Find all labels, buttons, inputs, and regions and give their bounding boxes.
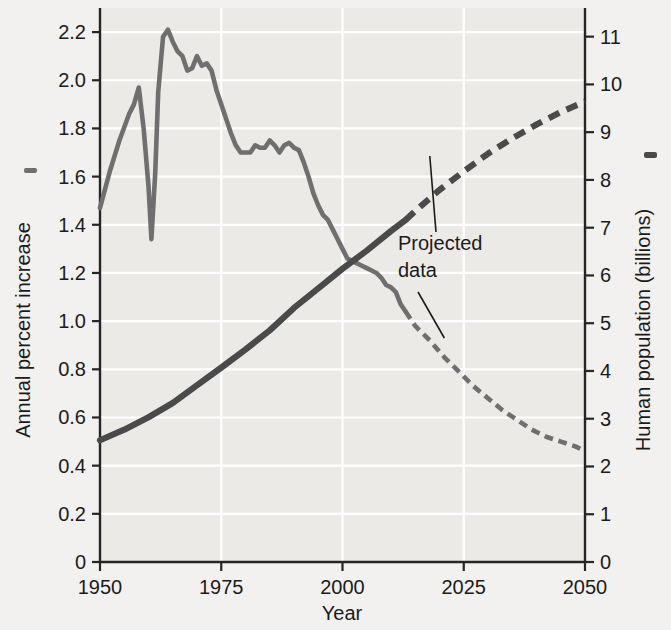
tick-label-left: 0 bbox=[75, 551, 86, 573]
tick-label-left: 1.6 bbox=[58, 166, 86, 188]
chart-figure: Projected data Year Annual percent incre… bbox=[0, 0, 671, 630]
x-axis-title: Year bbox=[322, 602, 363, 624]
tick-label-left: 2.0 bbox=[58, 69, 86, 91]
tick-label-left: 0.2 bbox=[58, 503, 86, 525]
tick-label-x: 2025 bbox=[442, 576, 487, 598]
tick-label-left: 0.4 bbox=[58, 455, 86, 477]
tick-label-x: 2050 bbox=[563, 576, 608, 598]
tick-label-right: 6 bbox=[600, 264, 611, 286]
tick-label-right: 0 bbox=[600, 551, 611, 573]
growth-legend-swatch bbox=[24, 168, 37, 173]
tick-label-x: 1950 bbox=[78, 576, 123, 598]
tick-label-x: 1975 bbox=[199, 576, 244, 598]
tick-label-right: 10 bbox=[600, 73, 622, 95]
y-right-axis-title: Human population (billions) bbox=[632, 209, 654, 451]
tick-label-x: 2000 bbox=[320, 576, 365, 598]
annotation-projected-line1: Projected bbox=[398, 232, 483, 254]
tick-label-right: 11 bbox=[600, 26, 621, 48]
tick-label-left: 2.2 bbox=[58, 21, 86, 43]
tick-label-right: 3 bbox=[600, 408, 611, 430]
population-legend-swatch bbox=[644, 152, 657, 158]
tick-label-left: 1.0 bbox=[58, 310, 86, 332]
tick-label-left: 0.8 bbox=[58, 358, 86, 380]
tick-label-left: 1.4 bbox=[58, 214, 86, 236]
population-growth-chart: Projected data Year Annual percent incre… bbox=[0, 0, 671, 630]
tick-label-right: 9 bbox=[600, 121, 611, 143]
annotation-projected-line2: data bbox=[398, 259, 438, 281]
tick-label-left: 1.8 bbox=[58, 117, 86, 139]
tick-label-left: 0.6 bbox=[58, 406, 86, 428]
tick-label-right: 2 bbox=[600, 455, 611, 477]
tick-label-right: 5 bbox=[600, 312, 611, 334]
y-left-axis-title: Annual percent increase bbox=[12, 222, 34, 438]
tick-label-left: 1.2 bbox=[58, 262, 86, 284]
tick-label-right: 4 bbox=[600, 360, 611, 382]
tick-label-right: 8 bbox=[600, 169, 611, 191]
tick-label-right: 1 bbox=[600, 503, 611, 525]
tick-label-right: 7 bbox=[600, 217, 611, 239]
